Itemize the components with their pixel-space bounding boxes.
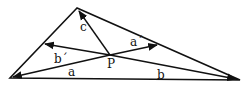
vector-a-label: a bbox=[68, 65, 75, 79]
vectors-group bbox=[13, 11, 236, 79]
vector-b-label: b bbox=[157, 68, 165, 82]
vector-c-label: c bbox=[80, 20, 87, 34]
point-p-label: P bbox=[107, 57, 115, 71]
labels-group: abca´b´P bbox=[54, 20, 165, 82]
vector-b-arrow bbox=[110, 55, 236, 79]
vector-a-prime-label: a´ bbox=[130, 35, 143, 49]
triangle-diagram: abca´b´P bbox=[0, 0, 247, 86]
vector-b-prime-label: b´ bbox=[54, 52, 68, 66]
